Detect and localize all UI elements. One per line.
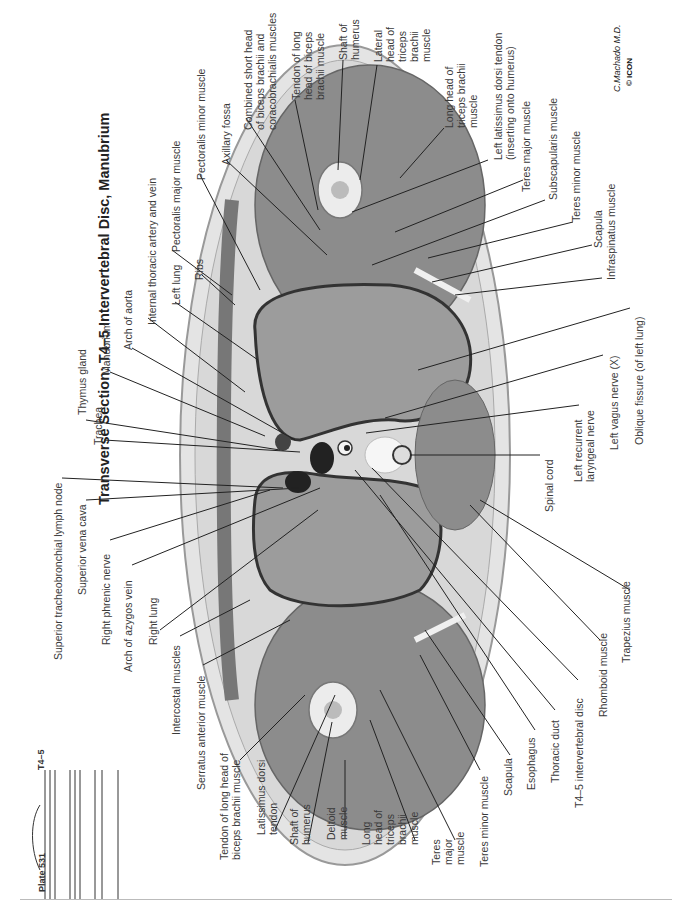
label-shaft-humerus-top: Shaft of humerus — [337, 19, 361, 60]
label-tendon-long-head-top: Tendon of long head of biceps brachii mu… — [290, 31, 326, 100]
label-shaft-humerus-bottom: Shaft of humerus — [288, 804, 312, 845]
label-thoracic-duct: Thoracic duct — [549, 720, 561, 783]
bottom-rule — [20, 899, 672, 900]
label-arch-of-aorta: Arch of aorta — [122, 290, 134, 350]
label-teres-minor-bottom: Teres minor muscle — [478, 776, 490, 867]
label-long-head-triceps-bottom: Long head of triceps brachii muscle — [360, 810, 420, 845]
label-pectoralis-minor: Pectoralis minor muscle — [195, 69, 207, 180]
label-serratus-anterior: Serratus anterior muscle — [195, 676, 207, 790]
label-oblique-fissure: Oblique fissure (of left lung) — [633, 317, 645, 445]
label-trachea: Trachea — [92, 407, 104, 445]
label-left-vagus: Left vagus nerve (X) — [608, 355, 620, 450]
label-scapula-top: Scapula — [592, 210, 604, 248]
label-infraspinatus: Infraspinatus muscle — [605, 184, 617, 280]
label-thymus-gland: Thymus gland — [76, 349, 88, 415]
artist-signature: C.Machado M.D. — [612, 24, 622, 92]
label-teres-major-top: Teres major muscle — [520, 101, 532, 192]
label-axillary-fossa: Axillary fossa — [220, 103, 232, 165]
label-tendon-long-head-bottom: Tendon of long head of biceps brachii mu… — [218, 753, 242, 860]
label-scapula-bottom: Scapula — [502, 758, 514, 796]
label-superior-vena-cava: Superior vena cava — [76, 505, 88, 595]
label-latissimus-dorsi-tendon: Latissimus dorsi tendon — [255, 760, 279, 835]
label-pectoralis-major: Pectoralis major muscle — [170, 141, 182, 252]
label-teres-minor-top: Teres minor muscle — [570, 131, 582, 222]
plate-number: Plate 531 — [37, 853, 47, 892]
label-combined-short-head: Combined short head of biceps brachii an… — [242, 13, 278, 130]
label-superior-tracheobronchial: Superior tracheobronchial lymph node — [52, 483, 64, 660]
label-long-head-triceps-top: Long head of triceps brachii muscle — [443, 63, 479, 128]
page-title: Transverse Section: T4–5 Intervertebral … — [96, 113, 112, 505]
label-trapezius: Trapezius muscle — [620, 581, 632, 663]
label-rhomboid: Rhomboid muscle — [597, 633, 609, 717]
label-t45-disc: T4–5 intervertebral disc — [573, 698, 585, 808]
label-esophagus: Esophagus — [525, 737, 537, 790]
label-deltoid: Deltoid muscle — [325, 807, 349, 840]
publisher-logo: © ICON — [625, 58, 634, 86]
label-spinal-cord: Spinal cord — [543, 459, 555, 512]
label-left-recurrent-laryngeal: Left recurrent laryngeal nerve — [572, 410, 596, 482]
label-teres-major-bottom: Teres major muscle — [430, 832, 466, 865]
label-intercostal: Intercostal muscles — [170, 645, 182, 735]
label-left-latissimus-tendon: Left latissimus dorsi tendon (inserting … — [492, 33, 516, 160]
label-ribs: Ribs — [193, 259, 205, 280]
label-manubrium: Manubrium — [100, 322, 112, 375]
label-subscapularis: Subscapularis muscle — [547, 98, 559, 200]
label-right-phrenic: Right phrenic nerve — [100, 554, 112, 645]
label-arch-azygos: Arch of azygos vein — [122, 580, 134, 672]
label-left-lung: Left lung — [170, 265, 182, 305]
level-marker: T4–5 — [36, 749, 46, 770]
label-internal-thoracic: Internal thoracic artery and vein — [146, 178, 158, 325]
label-right-lung: Right lung — [147, 598, 159, 645]
label-lateral-head-triceps: Lateral head of triceps brachii muscle — [372, 27, 432, 62]
